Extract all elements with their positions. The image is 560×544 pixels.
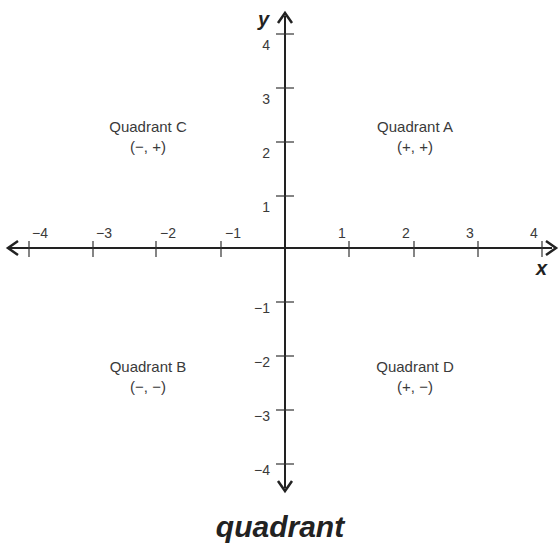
y-tick-label: −3 bbox=[240, 408, 270, 424]
quadrant-signs: (+, −) bbox=[376, 377, 454, 397]
y-tick-label: −4 bbox=[240, 462, 270, 478]
x-tick-label: 2 bbox=[402, 225, 410, 241]
y-tick-label: 1 bbox=[240, 199, 270, 215]
x-tick-label: 3 bbox=[466, 225, 474, 241]
diagram-caption: quadrant bbox=[216, 510, 344, 544]
quadrant-a-label: Quadrant A (+, +) bbox=[377, 117, 453, 157]
y-tick-label: 2 bbox=[240, 145, 270, 161]
quadrant-signs: (−, −) bbox=[110, 377, 187, 397]
quadrant-d-label: Quadrant D (+, −) bbox=[376, 357, 454, 397]
y-tick-label: −1 bbox=[240, 300, 270, 316]
x-tick-label: 1 bbox=[338, 225, 346, 241]
x-tick-label: 4 bbox=[530, 225, 538, 241]
y-tick-label: 3 bbox=[240, 91, 270, 107]
quadrant-c-label: Quadrant C (−, +) bbox=[109, 117, 187, 157]
y-tick-label: 4 bbox=[240, 37, 270, 53]
quadrant-name: Quadrant B bbox=[110, 357, 187, 377]
x-tick-label: −4 bbox=[32, 225, 48, 241]
quadrant-name: Quadrant C bbox=[109, 117, 187, 137]
x-tick-label: −3 bbox=[96, 225, 112, 241]
y-tick-label: −2 bbox=[240, 354, 270, 370]
quadrant-b-label: Quadrant B (−, −) bbox=[110, 357, 187, 397]
quadrant-name: Quadrant A bbox=[377, 117, 453, 137]
x-tick-label: −2 bbox=[160, 225, 176, 241]
quadrant-signs: (−, +) bbox=[109, 137, 187, 157]
x-axis-label: x bbox=[536, 257, 547, 280]
x-tick-label: −1 bbox=[225, 225, 241, 241]
quadrant-signs: (+, +) bbox=[377, 137, 453, 157]
y-axis-label: y bbox=[258, 8, 269, 31]
quadrant-name: Quadrant D bbox=[376, 357, 454, 377]
